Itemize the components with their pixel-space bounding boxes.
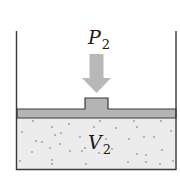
gas-particle xyxy=(136,153,138,155)
gas-particle xyxy=(32,120,34,122)
gas-particle xyxy=(69,150,71,152)
gas-particle xyxy=(133,120,135,122)
gas-particle xyxy=(170,130,172,132)
gas-particle xyxy=(81,150,83,152)
gas-particle xyxy=(31,151,33,153)
gas-particle xyxy=(128,138,130,140)
gas-particle xyxy=(111,148,113,150)
gas-particle xyxy=(127,161,129,163)
pressure-label: P2 xyxy=(87,26,110,52)
gas-particle xyxy=(143,136,145,138)
gas-particle xyxy=(51,163,53,165)
gas-particle xyxy=(68,123,70,125)
gas-particle xyxy=(35,140,37,142)
gas-particle xyxy=(79,136,81,138)
gas-particle xyxy=(41,141,43,143)
gas-particle xyxy=(85,163,87,165)
gas-particle xyxy=(49,147,51,149)
gas-particle xyxy=(19,160,21,162)
gas-particle xyxy=(60,132,62,134)
gas-particle xyxy=(51,126,53,128)
gas-particle xyxy=(160,120,162,122)
pressure-arrow-icon xyxy=(82,54,111,93)
gas-particle xyxy=(115,127,117,129)
gas-particle xyxy=(21,131,23,133)
gas-particle xyxy=(105,138,107,140)
gas-particle xyxy=(99,120,101,122)
gas-particle xyxy=(51,159,53,161)
gas-particle xyxy=(54,134,56,136)
gas-particle xyxy=(172,160,174,162)
gas-particle xyxy=(84,147,86,149)
piston-cylinder-diagram: P2 V2 xyxy=(0,0,180,185)
piston xyxy=(17,98,176,118)
gas-particle xyxy=(159,163,161,165)
gas-particle xyxy=(93,126,95,128)
gas-particle xyxy=(136,126,138,128)
gas-particle xyxy=(145,154,147,156)
gas-particle xyxy=(161,149,163,151)
gas-particle xyxy=(145,161,147,163)
gas-particle xyxy=(153,136,155,138)
gas-particle xyxy=(59,143,61,145)
